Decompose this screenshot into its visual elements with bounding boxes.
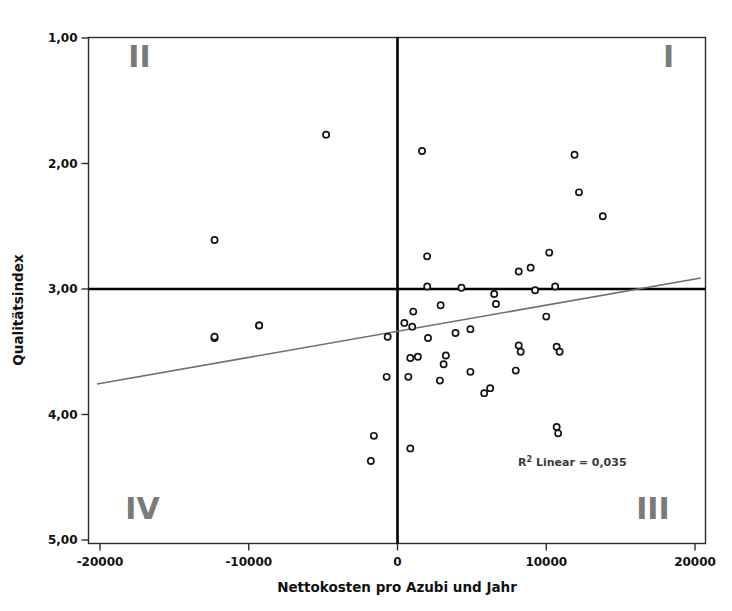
data-point xyxy=(543,314,549,320)
data-point xyxy=(437,378,443,384)
data-point xyxy=(576,189,582,195)
chart-canvas: -20000-1000001000020000 1,002,003,004,00… xyxy=(0,0,732,611)
data-point xyxy=(532,287,538,293)
data-point xyxy=(513,367,519,373)
data-point xyxy=(405,374,411,380)
data-point xyxy=(493,301,499,307)
data-point xyxy=(256,322,262,328)
data-point xyxy=(443,352,449,358)
data-point xyxy=(516,342,522,348)
r2-annotation: R2 Linear = 0,035 xyxy=(518,454,626,469)
data-point xyxy=(516,268,522,274)
data-point xyxy=(467,326,473,332)
data-point xyxy=(571,152,577,158)
quadrant-II: II xyxy=(128,39,150,74)
data-point xyxy=(409,324,415,330)
data-point xyxy=(600,213,606,219)
data-point xyxy=(441,361,447,367)
quadrant-I: I xyxy=(663,39,674,74)
data-point xyxy=(368,458,374,464)
data-point xyxy=(384,374,390,380)
data-point xyxy=(487,385,493,391)
data-point xyxy=(401,320,407,326)
data-point xyxy=(415,354,421,360)
data-point xyxy=(424,283,430,289)
data-point xyxy=(546,250,552,256)
scatter-plot-figure: -20000-1000001000020000 1,002,003,004,00… xyxy=(0,0,732,611)
x-axis-title: Nettokosten pro Azubi und Jahr xyxy=(277,579,517,595)
data-point xyxy=(458,285,464,291)
data-point xyxy=(424,253,430,259)
x-tick-label: -10000 xyxy=(225,555,272,569)
x-tick-label: 0 xyxy=(393,555,401,569)
y-tick-label: 5,00 xyxy=(48,533,78,547)
data-point xyxy=(557,349,563,355)
y-tick-label: 2,00 xyxy=(48,157,78,171)
data-point xyxy=(438,302,444,308)
data-point xyxy=(407,445,413,451)
data-point xyxy=(425,335,431,341)
data-point xyxy=(554,424,560,430)
data-point xyxy=(467,369,473,375)
data-point xyxy=(518,349,524,355)
data-point xyxy=(211,334,217,340)
y-tick-label: 1,00 xyxy=(48,31,78,45)
y-tick-label: 3,00 xyxy=(48,282,78,296)
y-tick-label: 4,00 xyxy=(48,408,78,422)
data-point xyxy=(528,265,534,271)
quadrant-III: III xyxy=(636,491,670,526)
data-point xyxy=(452,330,458,336)
data-point xyxy=(552,283,558,289)
figure-background xyxy=(0,0,732,611)
data-point xyxy=(371,433,377,439)
quadrant-IV: IV xyxy=(125,491,160,526)
x-tick-label: 10000 xyxy=(525,555,567,569)
y-axis-title: Qualitätsindex xyxy=(10,254,26,366)
data-point xyxy=(481,390,487,396)
data-point xyxy=(211,237,217,243)
data-point xyxy=(419,148,425,154)
data-point xyxy=(323,132,329,138)
data-point xyxy=(385,334,391,340)
data-point xyxy=(407,355,413,361)
x-tick-label: -20000 xyxy=(77,555,124,569)
data-point xyxy=(555,430,561,436)
data-point xyxy=(491,291,497,297)
data-point xyxy=(410,308,416,314)
x-tick-label: 20000 xyxy=(674,555,716,569)
